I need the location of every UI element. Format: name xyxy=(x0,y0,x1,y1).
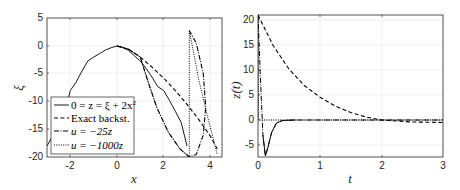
x-tick-label: 1 xyxy=(317,160,323,171)
y-axis-label: z(t) xyxy=(228,81,243,99)
y-tick-label: 15 xyxy=(243,39,255,50)
y-tick-label: -15 xyxy=(29,123,44,134)
legend-label: u = −1000z xyxy=(71,139,124,151)
x-axis-label: x xyxy=(130,171,137,186)
x-axis-label: t xyxy=(348,171,352,186)
y-tick-label: 20 xyxy=(243,14,255,25)
x-tick-label: 4 xyxy=(207,160,213,171)
y-tick-label: 5 xyxy=(37,12,43,23)
right-plot: 0 1 2 3 20 15 10 5 0 -5 t z(t) xyxy=(228,14,446,186)
y-tick-label: -10 xyxy=(29,95,44,106)
x-tick-label: 3 xyxy=(440,160,446,171)
right-axes-box xyxy=(258,15,443,157)
y-tick-label: 0 xyxy=(248,114,254,125)
y-axis-label: ξ xyxy=(11,85,26,91)
left-plot: -2 0 2 4 5 0 -5 -10 -15 -20 x ξ 0 = z = … xyxy=(11,12,222,186)
x-tick-label: 2 xyxy=(379,160,385,171)
y-tick-label: 10 xyxy=(243,64,255,75)
legend-label: u = −25z xyxy=(71,125,113,137)
y-tick-label: -20 xyxy=(29,151,44,162)
series-exact-backstepping xyxy=(258,15,443,123)
legend-label: 0 = z = ξ + 2x2 xyxy=(71,99,136,112)
y-tick-label: -5 xyxy=(245,139,254,150)
x-tick-label: 0 xyxy=(114,160,120,171)
y-tick-label: 0 xyxy=(37,40,43,51)
x-tick-label: 2 xyxy=(160,160,166,171)
legend: 0 = z = ξ + 2x2 Exact backst. u = −25z u… xyxy=(51,97,136,154)
right-grid xyxy=(258,15,443,157)
series-u-minus-25z xyxy=(258,15,443,156)
x-tick-label: -2 xyxy=(66,160,75,171)
series-u-minus-1000z xyxy=(258,15,443,120)
series-u-minus-25z-solid xyxy=(263,120,295,156)
y-tick-label: 5 xyxy=(248,89,254,100)
figure: -2 0 2 4 5 0 -5 -10 -15 -20 x ξ 0 = z = … xyxy=(0,0,460,190)
y-tick-label: -5 xyxy=(34,67,43,78)
x-tick-label: 0 xyxy=(255,160,261,171)
legend-label: Exact backst. xyxy=(71,112,130,124)
